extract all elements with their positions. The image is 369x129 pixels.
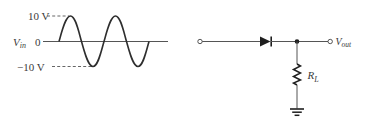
positive-peak-label: 10 V bbox=[28, 10, 50, 22]
rectifier-circuit: Vout RL bbox=[198, 36, 352, 115]
vin-label: Vin bbox=[13, 36, 26, 50]
diode-icon bbox=[260, 37, 271, 47]
input-waveform: 10 V 0 −10 V Vin bbox=[13, 10, 168, 73]
vout-label-sub: out bbox=[342, 40, 353, 49]
diagram-svg: 10 V 0 −10 V Vin Vout bbox=[0, 0, 369, 129]
resistor-label-sub: L bbox=[313, 75, 319, 84]
vin-label-sub: in bbox=[20, 41, 26, 50]
resistor-icon bbox=[294, 64, 301, 85]
zero-label: 0 bbox=[35, 36, 41, 48]
resistor-label: RL bbox=[307, 69, 320, 84]
diagram-canvas: 10 V 0 −10 V Vin Vout bbox=[0, 0, 369, 129]
vout-label: Vout bbox=[336, 36, 353, 49]
negative-peak-label: −10 V bbox=[17, 61, 45, 73]
ground-icon bbox=[290, 109, 304, 115]
input-terminal[interactable] bbox=[198, 39, 202, 43]
output-terminal[interactable] bbox=[328, 39, 332, 43]
